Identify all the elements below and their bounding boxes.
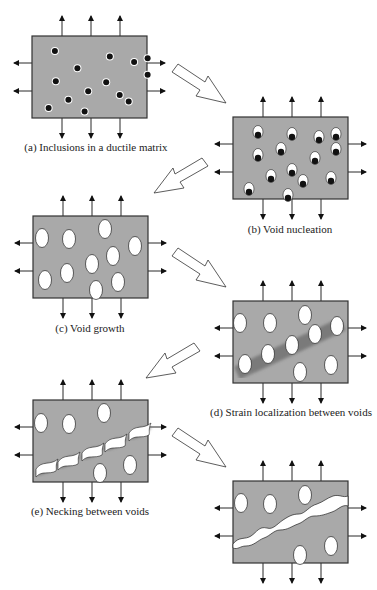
inclusion — [278, 149, 284, 155]
void — [99, 220, 112, 239]
void — [325, 356, 338, 375]
void — [286, 336, 299, 355]
inclusion — [316, 137, 322, 143]
caption-e: (e) Necking between voids — [20, 505, 160, 517]
inclusion — [255, 132, 261, 138]
void — [299, 486, 312, 505]
inclusion — [107, 53, 113, 59]
void — [98, 404, 111, 423]
void — [235, 494, 248, 513]
void — [331, 317, 344, 336]
caption-d: (d) Strain localization between voids — [205, 406, 377, 418]
inclusion — [289, 134, 295, 140]
arrow-d-to-e — [146, 343, 200, 378]
inclusion — [85, 88, 91, 94]
void — [112, 273, 125, 292]
void — [61, 264, 74, 283]
arrow-c-to-d — [172, 248, 226, 287]
inclusion — [74, 65, 80, 71]
panel-f — [215, 461, 366, 583]
void — [264, 495, 277, 514]
inclusion — [289, 170, 295, 176]
inclusion — [333, 134, 339, 140]
panel-c — [15, 196, 166, 318]
inclusion — [285, 195, 291, 201]
void — [239, 355, 252, 374]
inclusion — [126, 98, 132, 104]
panel-d — [215, 281, 366, 403]
inclusion — [103, 79, 109, 85]
inclusion — [53, 78, 59, 84]
panel-b — [215, 97, 366, 219]
void — [94, 464, 107, 483]
inclusion — [255, 155, 261, 161]
void — [63, 415, 76, 434]
void — [35, 414, 48, 433]
inclusion — [312, 158, 318, 164]
inclusion — [117, 92, 123, 98]
panel-a — [14, 16, 165, 138]
void — [294, 546, 307, 565]
void — [86, 255, 99, 274]
void — [36, 229, 49, 248]
arrow-e-to-f — [172, 428, 226, 467]
inclusion — [65, 97, 71, 103]
inclusion — [46, 105, 52, 111]
inclusion — [268, 176, 274, 182]
panel-e — [15, 380, 166, 502]
void — [234, 314, 247, 333]
inclusion — [82, 109, 88, 115]
caption-c: (c) Void growth — [20, 322, 160, 334]
void — [299, 306, 312, 325]
inclusion — [300, 181, 306, 187]
void — [309, 325, 322, 344]
inclusion — [145, 72, 151, 78]
void — [124, 456, 137, 475]
caption-b: (b) Void nucleation — [220, 223, 360, 235]
inclusion — [131, 59, 137, 65]
arrow-a-to-b — [172, 64, 226, 103]
void — [294, 363, 307, 382]
arrow-b-to-c — [154, 158, 208, 193]
fracture-diagram — [0, 0, 377, 590]
caption-a: (a) Inclusions in a ductile matrix — [16, 141, 176, 153]
void — [63, 230, 76, 249]
void — [39, 271, 52, 290]
void — [262, 345, 275, 364]
void — [129, 237, 142, 256]
void — [107, 247, 120, 266]
void — [90, 281, 103, 300]
void — [264, 314, 277, 333]
inclusion — [52, 48, 58, 54]
void — [325, 537, 338, 556]
inclusion — [246, 189, 252, 195]
inclusion — [333, 149, 339, 155]
inclusion — [328, 178, 334, 184]
inclusion — [145, 55, 151, 61]
